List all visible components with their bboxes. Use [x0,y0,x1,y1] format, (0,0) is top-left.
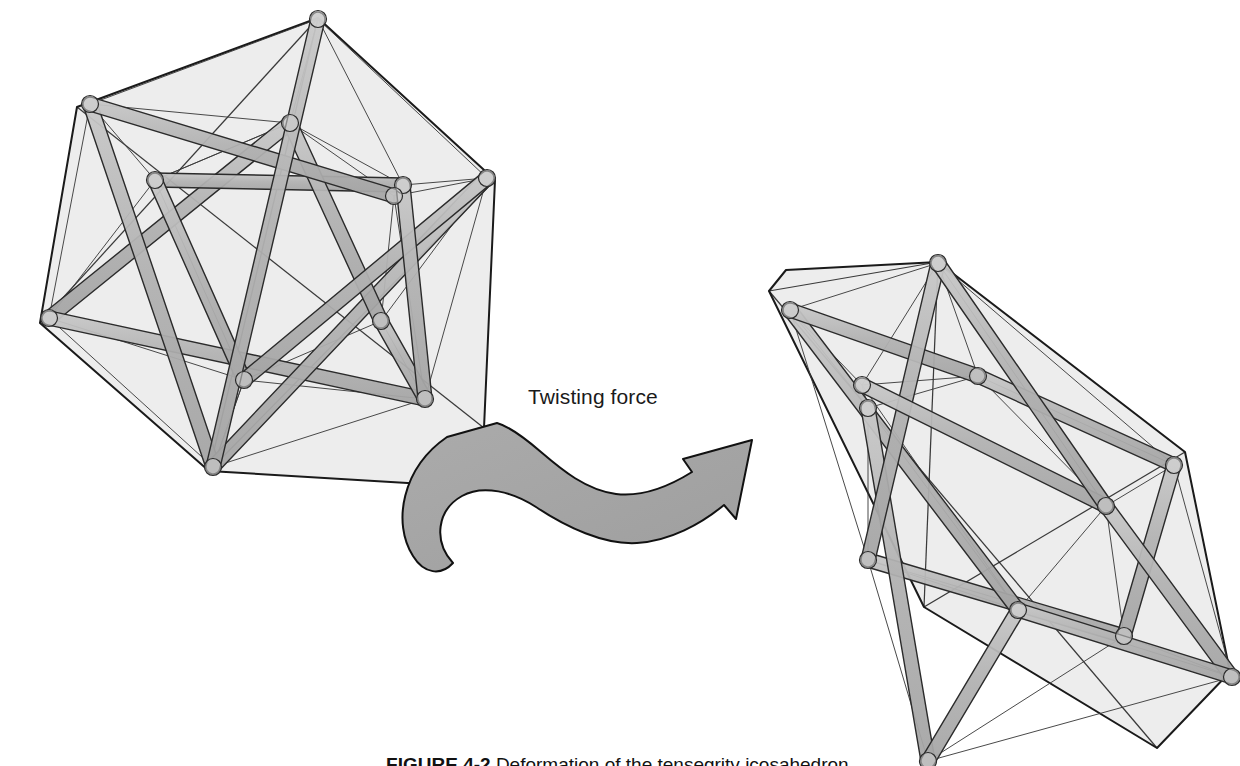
node-joint [854,377,871,394]
node-joint [860,400,877,417]
node-joint [1116,628,1133,645]
node-joint [386,188,403,205]
figure-caption-text: Deformation of the tensegrity icosahedro… [496,754,854,766]
node-joint [1010,602,1027,619]
node-joint [205,459,222,476]
node-joint [479,170,496,187]
node-joint [41,310,58,327]
figure-root: Twisting force FIGURE 4-2 Deformation of… [0,0,1240,766]
node-joint [1098,498,1115,515]
figure-caption-number: FIGURE 4-2 [386,754,491,766]
tensegrity-diagram-canvas [0,0,1240,766]
node-joint [282,115,299,132]
twisting-force-label: Twisting force [528,385,658,409]
node-joint [310,11,327,28]
node-joint [970,368,987,385]
node-joint [417,391,434,408]
node-joint [860,552,877,569]
node-joint [147,172,164,189]
node-joint [236,372,253,389]
node-joint [373,313,390,330]
node-joint [782,302,799,319]
node-joint [930,255,947,272]
node-joint [1224,669,1240,686]
node-joint [82,96,99,113]
figure-caption: FIGURE 4-2 Deformation of the tensegrity… [0,752,1240,766]
node-joint [1166,457,1183,474]
